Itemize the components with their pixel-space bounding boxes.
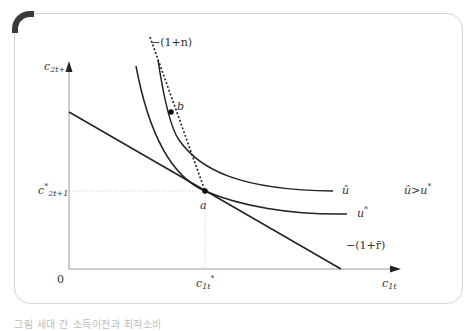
u-hat-curve-label: û [342, 184, 349, 197]
population-growth-slope-label: −(1+n) [151, 36, 192, 49]
utility-comparison-annotation: û>u* [404, 182, 431, 197]
y-axis-label: c2t+1 [44, 60, 70, 74]
x-axis-arrow-icon [390, 266, 401, 273]
population-growth-line [150, 37, 205, 191]
point-b-marker [168, 109, 174, 115]
x-star-tick-label: c1t* [196, 274, 214, 291]
u-star-curve-label: u* [357, 205, 368, 220]
point-a-marker [202, 188, 208, 194]
point-b-label: b [177, 100, 184, 113]
x-axis-label: c1t [382, 277, 397, 291]
interest-slope-label: −(1+r̄) [346, 239, 385, 252]
indifference-curve-u-hat [158, 60, 333, 191]
origin-label: 0 [57, 273, 64, 286]
point-a-label: a [200, 199, 207, 212]
figure-caption: 그림 세대 간 소득이전과 최적소비 [14, 316, 162, 331]
y-star-tick-label: c*2t+1 [38, 182, 68, 198]
indifference-curve-u-star [136, 66, 347, 214]
